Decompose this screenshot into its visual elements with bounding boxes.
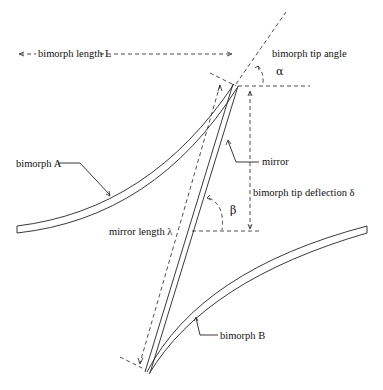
mirror-leader [228, 141, 259, 162]
alpha-label: α [276, 65, 284, 78]
bimorph-tip-deflection-label: bimorph tip deflection δ [253, 187, 355, 198]
bimorph-length-label: bimorph length L [38, 48, 112, 59]
bimorph-b [147, 226, 367, 374]
beta-arc [209, 198, 222, 230]
mirror-length-label: mirror length λ [109, 226, 173, 237]
bimorph-tip-angle-label: bimorph tip angle [272, 48, 347, 59]
bimorph-a-leader [58, 163, 110, 195]
bimorph-b-label: bimorph B [220, 330, 265, 341]
bimorph-a-label: bimorph A [16, 158, 62, 169]
tip-perpendicular-line [210, 73, 236, 86]
beta-label: β [230, 204, 236, 217]
bimorph-mirror-diagram: bimorph length L bimorph tip angle α bim… [0, 0, 383, 390]
mirror-length-line [140, 85, 220, 363]
bimorph-b-leader [196, 318, 218, 335]
mirror-label: mirror [262, 156, 289, 167]
